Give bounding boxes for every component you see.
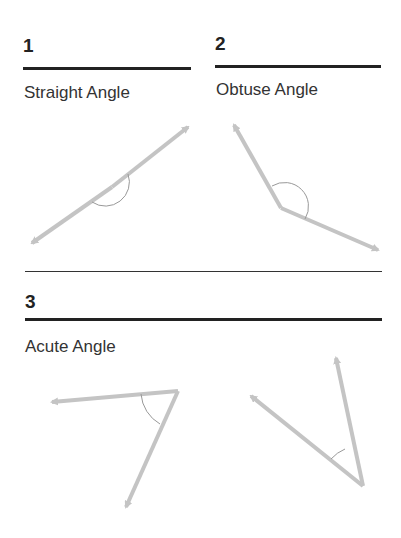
angle-diagrams [0,0,401,538]
obtuse-angle-figure [234,125,378,250]
straight-angle-figure [32,127,188,243]
acute-angle-figure-right [251,358,363,486]
acute-angle-figure-left [52,391,178,507]
